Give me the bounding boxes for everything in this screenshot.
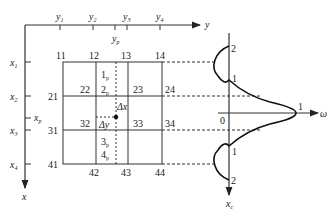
node-grid	[63, 62, 162, 164]
y4-label: y4	[155, 11, 163, 23]
curve-label-bot-1: 1	[232, 146, 237, 157]
x-ticks	[25, 62, 31, 164]
y1-label: y1	[55, 11, 63, 23]
interpolation-diagram: y x y1 y2 y3 y4 yp x1 x2 xp x3 x4 11 12 …	[0, 0, 336, 217]
label-4p: 4p	[101, 149, 109, 161]
curve-label-top-2: 2	[231, 43, 236, 54]
x-axis-label: x	[21, 191, 27, 202]
label-1p: 1p	[101, 69, 109, 81]
node-22: 22	[80, 84, 90, 95]
curve-label-top-1: 1	[232, 73, 237, 84]
node-42: 42	[89, 167, 99, 178]
node-24: 24	[165, 84, 175, 95]
delta-y-label: Δy	[98, 119, 110, 130]
node-41: 41	[48, 159, 58, 170]
xp-label: xp	[33, 112, 41, 124]
node-21: 21	[48, 91, 58, 102]
node-43: 43	[121, 167, 131, 178]
y-axis-label: y	[204, 19, 210, 30]
node-12: 12	[89, 50, 99, 61]
x1-label: x1	[9, 57, 17, 69]
node-11: 11	[56, 50, 66, 61]
yp-label: yp	[111, 33, 119, 45]
node-31: 31	[48, 125, 58, 136]
x4-label: x4	[9, 159, 17, 171]
xc-axis-label: xc	[225, 198, 233, 210]
node-34: 34	[165, 118, 175, 129]
node-33: 33	[133, 118, 143, 129]
curve-label-bot-2: 2	[231, 175, 236, 186]
x2-label: x2	[9, 91, 17, 103]
y2-label: y2	[88, 11, 96, 23]
origin-label: 0	[220, 115, 225, 126]
label-2p: 2p	[101, 84, 109, 96]
node-23: 23	[133, 84, 143, 95]
y-ticks	[60, 25, 160, 30]
label-3p: 3p	[101, 136, 109, 148]
node-44: 44	[155, 167, 165, 178]
delta-x-label: Δx	[116, 101, 128, 112]
y3-label: y3	[122, 11, 130, 23]
omega-axis-label: ω	[320, 108, 327, 119]
node-13: 13	[121, 50, 131, 61]
node-32: 32	[80, 118, 90, 129]
interp-point	[114, 115, 118, 119]
node-14: 14	[155, 50, 165, 61]
x3-label: x3	[9, 125, 17, 137]
curve-label-peak-1: 1	[298, 101, 303, 112]
